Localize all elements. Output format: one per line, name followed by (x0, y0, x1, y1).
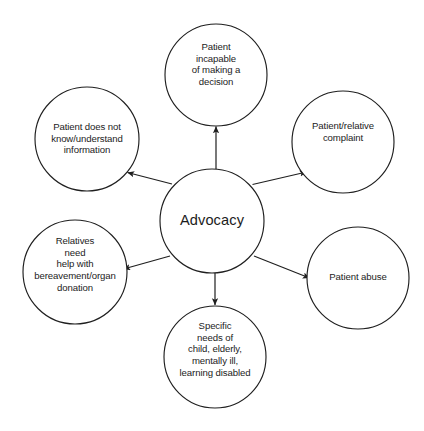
node-circle-incapable-decision[interactable] (165, 24, 267, 126)
connector-to-patient-abuse (254, 256, 310, 278)
diagram-canvas (0, 0, 424, 431)
connector-to-bereavement-organ-donation (124, 256, 171, 269)
node-circle-patient-relative-complaint[interactable] (292, 91, 394, 193)
node-circle-specific-needs[interactable] (164, 306, 266, 408)
node-circle-patient-abuse[interactable] (307, 227, 409, 329)
node-circle-bereavement-organ-donation[interactable] (23, 220, 127, 324)
advocacy-concept-diagram: Patient incapable of making a decision P… (0, 0, 424, 431)
node-circle-does-not-understand[interactable] (35, 87, 139, 191)
connector-to-does-not-understand (128, 173, 173, 185)
node-circle-advocacy-center[interactable] (160, 169, 264, 273)
connector-to-patient-relative-complaint (253, 172, 307, 185)
node-layer (23, 24, 409, 408)
